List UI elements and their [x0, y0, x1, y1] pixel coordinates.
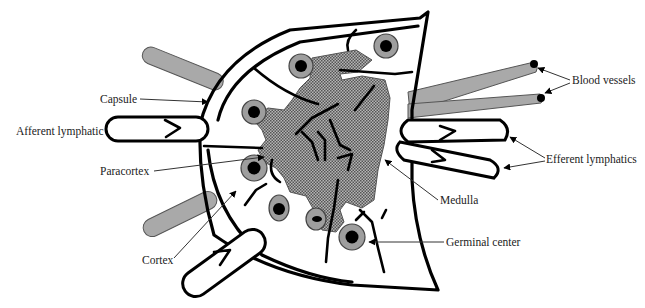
- label-medulla: Medulla: [440, 194, 478, 206]
- label-capsule: Capsule: [100, 93, 137, 106]
- label-germinal-center: Germinal center: [446, 236, 521, 248]
- vessel-top-left: [140, 44, 226, 92]
- germinal-center: [289, 54, 313, 78]
- germinal-center: [242, 100, 266, 124]
- label-paracortex: Paracortex: [100, 165, 149, 177]
- germinal-center: [306, 208, 326, 230]
- leader-blood-vessel-2: [545, 83, 570, 93]
- label-afferent-lymphatic: Afferent lymphatic: [16, 125, 104, 138]
- afferent-lymphatic-lower: [178, 224, 271, 301]
- germinal-center: [339, 224, 365, 250]
- leader-efferent-2: [504, 161, 545, 168]
- germinal-center: [269, 195, 289, 221]
- germinal-center: [241, 155, 267, 181]
- leader-blood-vessel-1: [538, 68, 570, 80]
- leader-capsule: [140, 99, 208, 102]
- label-blood-vessels: Blood vessels: [572, 74, 636, 86]
- germinal-center: [374, 34, 398, 58]
- lymph-node-diagram: Capsule Afferent lymphatic Paracortex Co…: [0, 0, 645, 308]
- blood-vessel-end-dot: [530, 60, 538, 68]
- afferent-lymphatic: [106, 117, 208, 141]
- leader-efferent-1: [510, 137, 545, 158]
- efferent-lymphatic-upper: [401, 120, 508, 142]
- blood-vessel-end-dot: [537, 94, 545, 102]
- label-cortex: Cortex: [142, 254, 174, 266]
- label-efferent-lymphatics: Efferent lymphatics: [546, 153, 637, 166]
